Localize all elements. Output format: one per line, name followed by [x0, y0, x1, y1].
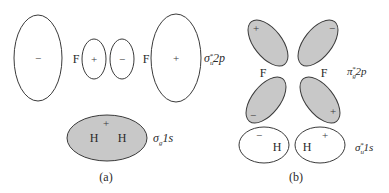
orbital-diagram: − F + − F + σu*2p + H H σg1s (a) + − — [0, 0, 389, 193]
atom-label-f-right: F — [321, 66, 328, 80]
orbital-label-sigma-u-star-2p: σu*2p — [204, 51, 225, 67]
caption-b: (b) — [289, 170, 303, 184]
atom-label-h-right: H — [303, 140, 312, 154]
pi-g-star-2p-orbital: + − F F − + πg*2p — [238, 13, 367, 130]
left-small-lobe-sign: + — [91, 53, 97, 65]
orbital-label-pi-g-star-2p: πg*2p — [347, 65, 367, 80]
right-small-lobe-sign: − — [119, 53, 125, 65]
caption-a: (a) — [99, 170, 112, 184]
orbital-label-sigma-g-1s: σg1s — [153, 131, 173, 147]
panel-b: + − F F − + πg*2p − H + H σu*1s (b) — [238, 13, 373, 184]
bottom-left-lobe-sign: − — [250, 109, 256, 121]
atom-label-h-left: H — [90, 131, 99, 145]
right-large-lobe-sign: + — [173, 52, 179, 64]
left-s-lobe — [239, 127, 289, 163]
top-right-lobe — [290, 13, 345, 73]
sigma-g-1s-orbital: + H H σg1s — [67, 115, 173, 161]
atom-label-h-right: H — [118, 131, 127, 145]
panel-a: − F + − F + σu*2p + H H σg1s (a) — [14, 14, 225, 184]
bottom-right-lobe-sign: + — [330, 105, 336, 117]
atom-label-f-left: F — [73, 52, 80, 66]
atom-label-f-left: F — [260, 66, 267, 80]
top-left-lobe-sign: + — [253, 22, 259, 34]
top-left-lobe — [240, 13, 295, 73]
orbital-label-sigma-u-star-1s: σu*1s — [355, 141, 373, 156]
sigma-u-star-1s-orbital: − H + H σu*1s — [239, 127, 373, 163]
bonding-lobe-sign: + — [103, 117, 109, 129]
left-s-lobe-sign: − — [256, 129, 262, 141]
atom-label-f-right: F — [143, 52, 150, 66]
top-right-lobe-sign: − — [329, 22, 335, 34]
right-s-lobe-sign: + — [322, 129, 328, 141]
atom-label-h-left: H — [273, 140, 282, 154]
sigma-u-star-2p-orbital: − F + − F + σu*2p — [14, 14, 225, 102]
left-large-lobe-sign: − — [35, 52, 41, 64]
